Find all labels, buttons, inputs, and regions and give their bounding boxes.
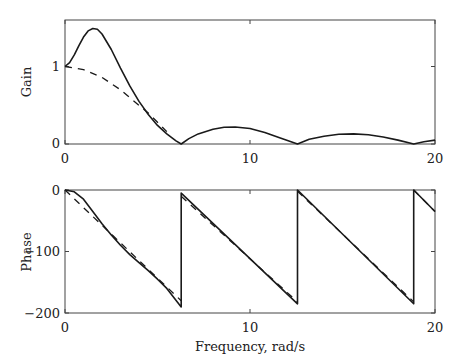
phase-xtick-20: 20 [427,320,444,335]
phase-xtick-10: 10 [242,320,259,335]
gain-ticks [65,20,435,144]
solid-curve [65,29,435,145]
phase-axes-frame [65,190,435,313]
gain-ytick-0: 0 [52,136,60,151]
figure: 1 0 0 10 20 Gain 0 −100 −200 0 10 20 Pha… [0,0,461,363]
phase-ytick-0: 0 [52,183,60,198]
gain-axes-frame [65,20,435,144]
phase-ytick-minus200: −200 [24,306,60,321]
solid-curve [65,190,435,307]
gain-ytick-1: 1 [52,59,60,74]
x-axis-label: Frequency, rad/s [195,339,305,354]
dashed-curve [65,67,167,132]
phase-lines [65,190,435,307]
gain-xtick-20: 20 [427,151,444,166]
gain-xtick-0: 0 [61,151,69,166]
phase-ticks [65,190,435,313]
gain-ylabel: Gain [19,66,34,97]
phase-xtick-0: 0 [61,320,69,335]
phase-ylabel: Phase [19,232,34,272]
gain-xtick-10: 10 [242,151,259,166]
gain-plot: 1 0 0 10 20 Gain [19,20,443,166]
phase-plot: 0 −100 −200 0 10 20 Phase Frequency, rad… [19,183,443,354]
gain-lines [65,29,435,145]
